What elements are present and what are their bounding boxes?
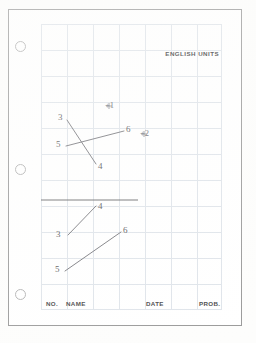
point-label-lower-4: 4 [98,201,103,211]
punch-hole-top [15,41,26,52]
point-label-upper-5: 5 [56,139,61,149]
grid-line-horizontal [41,76,222,77]
grid-line-vertical [93,24,94,310]
punch-hole-middle [15,164,26,175]
punch-hole-bottom [15,289,26,300]
plus-annotation-2: +2 [140,128,149,138]
grid-line-horizontal [41,128,222,129]
point-label-lower-6: 6 [123,225,128,235]
worksheet-page: ENGLISH UNITS 3 5 6 4 +1 +2 4 3 6 5 NO. … [0,0,256,343]
point-label-lower-5: 5 [55,264,60,274]
grid-line-horizontal [41,24,222,25]
point-label-upper-6: 6 [126,124,131,134]
grid-line-vertical [67,24,68,310]
grid-line-horizontal [41,258,222,259]
grid-line-vertical [145,24,146,310]
point-label-upper-3: 3 [58,112,63,122]
grid-line-horizontal [41,232,222,233]
graph-grid: ENGLISH UNITS [41,24,222,310]
grid-line-horizontal [41,309,222,310]
point-label-lower-3: 3 [56,229,61,239]
plus-annotation-1: +1 [105,100,114,110]
footer-field-prob: PROB. [199,300,220,307]
footer-field-date: DATE [146,300,164,307]
footer-field-no: NO. [46,300,58,307]
grid-line-horizontal [41,206,222,207]
english-units-label: ENGLISH UNITS [165,50,219,57]
grid-line-horizontal [41,154,222,155]
grid-line-vertical [171,24,172,310]
grid-line-vertical [197,24,198,310]
point-label-upper-4: 4 [98,161,103,171]
grid-line-horizontal [41,180,222,181]
footer-field-name: NAME [66,300,86,307]
grid-line-vertical [221,24,222,310]
grid-line-vertical [119,24,120,310]
grid-line-vertical [41,24,42,310]
grid-line-horizontal [41,102,222,103]
grid-outline [41,24,222,310]
grid-line-horizontal [41,284,222,285]
